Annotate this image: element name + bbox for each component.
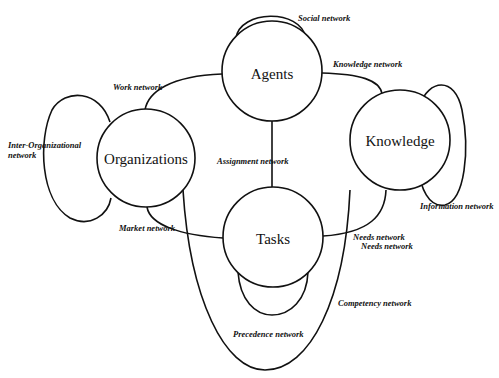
diagram-shapes (0, 0, 499, 378)
inter-organizational-label-line2: network (8, 150, 36, 160)
work-network-label: Work network (113, 82, 162, 92)
information-network-label: Information network (420, 201, 493, 211)
knowledge-network-label: Knowledge network (333, 59, 402, 69)
knowledge-node-label: Knowledge (365, 133, 434, 150)
market-network-label: Market network (119, 223, 175, 233)
tasks-node-label: Tasks (256, 231, 290, 248)
network-diagram: Agents Organizations Knowledge Tasks Soc… (0, 0, 499, 378)
competency-network-label: Competency network (338, 298, 411, 308)
work-network-edge (145, 74, 222, 110)
social-network-label: Social network (298, 13, 350, 23)
knowledge-network-edge (322, 73, 382, 94)
organizations-node-label: Organizations (104, 151, 188, 168)
needs-network-label-2: Needs network (361, 241, 413, 251)
needs-network-edge (323, 190, 386, 236)
inter-organizational-label-line1: Inter-Organizational (8, 140, 81, 150)
assignment-network-label: Assignment network (217, 156, 289, 166)
agents-node-label: Agents (251, 66, 294, 83)
precedence-network-label: Precedence network (233, 329, 304, 339)
